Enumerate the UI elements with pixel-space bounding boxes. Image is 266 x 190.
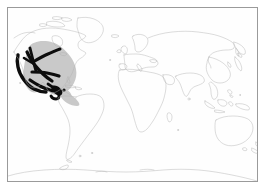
coastline-new-guinea [236,104,250,110]
coastline-tasmania [243,148,247,151]
coastline-atlantic-island [109,59,110,60]
coastline-south-asia [175,73,204,96]
coastline-siberia-east [234,42,245,54]
coastline-greenland [77,17,103,42]
coastline-iceland [112,35,119,38]
coastline-arctic-islands-4 [53,17,62,20]
coastline-antarctic-inlet [96,171,107,172]
coastline-new-zealand-south [252,148,259,153]
coastline-philippines-south [230,95,233,97]
coastline-borneo [218,100,227,107]
coastline-arctic-islands-1 [47,21,65,27]
coastline-sulawesi [229,102,233,106]
world-map [0,0,266,190]
coastline-northern-asia [148,31,234,68]
coastline-indochina [209,82,218,99]
coastline-east-asia [206,57,230,83]
coastline-korea [228,62,231,67]
coastline-falkland-islands [79,155,81,157]
coastline-scandinavia [132,34,148,52]
coastline-sri-lanka [188,98,190,100]
coastline-pacific-island-east [240,95,241,96]
coastline-indian-ocean-island [177,129,178,130]
coastline-antarctica [8,169,257,181]
coastline-australia [215,116,253,146]
distribution-map-figure [0,0,266,190]
coastline-antarctic-inlet-2 [140,169,154,170]
coastline-java [215,110,225,113]
coastline-africa [118,69,166,132]
coastline-new-zealand-north [256,142,260,147]
coastline-arctic-islands-2 [62,18,72,22]
coastline-japan [235,57,242,71]
coastline-great-britain [121,46,127,54]
coastline-madagascar [167,113,172,122]
coastline-hawaii [19,82,20,83]
coastline-south-pacific-island [91,152,92,153]
coastline-arctic-islands-3 [40,24,47,27]
coastline-sumatra [205,101,215,108]
coastline-hispaniola [76,87,82,90]
coastline-ireland [117,50,121,53]
coastline-south-america [58,94,104,159]
coastline-philippines [228,90,232,94]
coastline-black-sea [150,60,157,63]
coastline-tierra-del-fuego [67,160,72,162]
